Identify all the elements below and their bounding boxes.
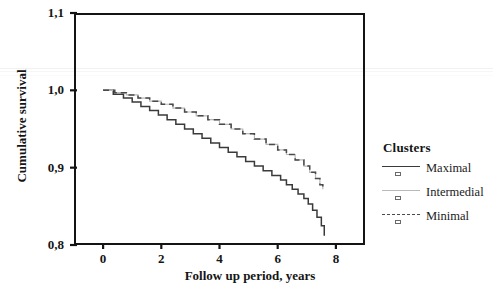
- legend-item-maximal[interactable]: Maximal: [381, 162, 493, 183]
- x-tick-label: 0: [91, 253, 115, 265]
- legend-key-intermedial: [381, 186, 421, 204]
- censor-marker-icon: [395, 220, 401, 224]
- x-tick-label: 6: [266, 253, 290, 265]
- y-tick-label: 1,1: [22, 7, 64, 19]
- chart-legend: Clusters Maximal Intermedial Minimal: [381, 140, 493, 234]
- x-tick-label: 8: [324, 253, 348, 265]
- legend-label: Intermedial: [426, 186, 484, 199]
- legend-line-sample: [382, 190, 420, 191]
- legend-key-maximal: [381, 162, 421, 180]
- censor-marker-icon: [395, 172, 401, 176]
- legend-label: Minimal: [426, 210, 469, 223]
- legend-line-sample: [382, 166, 420, 167]
- y-tick-label: 0,8: [22, 239, 64, 251]
- y-axis-title: Cumulative survival: [14, 41, 30, 211]
- legend-label: Maximal: [426, 162, 471, 175]
- x-tick-label: 2: [149, 253, 173, 265]
- legend-line-sample: [382, 214, 420, 215]
- legend-item-intermedial[interactable]: Intermedial: [381, 186, 493, 207]
- x-tick-label: 4: [208, 253, 232, 265]
- legend-key-minimal: [381, 210, 421, 228]
- censor-marker-icon: [395, 196, 401, 200]
- survival-chart-figure: 1,1 1,0 0,9 0,8 0 2 4 6 8 Cumulative sur…: [0, 0, 493, 294]
- legend-item-minimal[interactable]: Minimal: [381, 210, 493, 231]
- x-axis-title: Follow up period, years: [130, 268, 370, 284]
- legend-title: Clusters: [383, 140, 493, 156]
